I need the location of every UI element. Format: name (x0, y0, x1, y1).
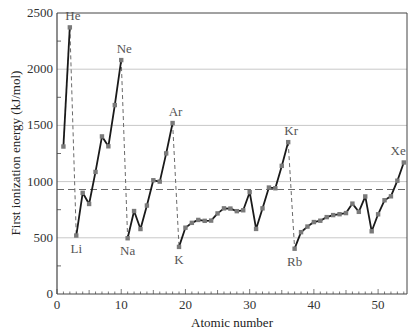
data-point (292, 247, 296, 251)
data-point (235, 209, 239, 213)
x-tick-label: 40 (307, 297, 320, 312)
data-point (254, 227, 258, 231)
y-tick-label: 500 (34, 230, 54, 245)
data-point (382, 198, 386, 202)
data-point (228, 206, 232, 210)
data-point (177, 245, 181, 249)
y-tick-label: 2500 (27, 5, 53, 20)
data-point (125, 236, 129, 240)
series-line (179, 142, 288, 247)
data-point (170, 121, 174, 125)
data-point (325, 215, 329, 219)
data-point (138, 227, 142, 231)
data-point (376, 212, 380, 216)
period-break (288, 142, 294, 249)
data-point (203, 219, 207, 223)
x-tick-label: 50 (372, 297, 385, 312)
element-label-rb: Rb (287, 254, 302, 269)
data-point (337, 212, 341, 216)
data-point (363, 194, 367, 198)
period-break (121, 60, 127, 238)
x-tick-label: 30 (243, 297, 256, 312)
data-point (68, 25, 72, 29)
y-tick-label: 2000 (27, 61, 53, 76)
element-label-k: K (174, 252, 184, 267)
element-label-ne: Ne (117, 41, 132, 56)
x-tick-label: 0 (54, 297, 61, 312)
data-point (267, 185, 271, 189)
data-point (389, 194, 393, 198)
data-point (190, 221, 194, 225)
period-break (70, 27, 76, 235)
data-point (183, 225, 187, 229)
x-tick-label: 10 (115, 297, 128, 312)
data-point (222, 206, 226, 210)
data-point (318, 219, 322, 223)
data-point (119, 58, 123, 62)
data-point (299, 230, 303, 234)
data-point (247, 190, 251, 194)
data-point (312, 220, 316, 224)
data-point (280, 164, 284, 168)
data-point (196, 218, 200, 222)
ionization-energy-chart: 0102030405005001000150020002500 HeNeArKr… (0, 0, 418, 334)
element-labels: HeNeArKrXeLiNaKRb (65, 8, 406, 268)
grid-lines (57, 69, 407, 238)
data-point (395, 179, 399, 183)
element-label-ar: Ar (169, 104, 183, 119)
data-point (350, 201, 354, 205)
data-point (286, 140, 290, 144)
period-break (173, 123, 179, 247)
data-point (106, 144, 110, 148)
data-point (80, 191, 84, 195)
data-point (215, 211, 219, 215)
series-line (76, 60, 121, 236)
data-point (145, 203, 149, 207)
element-label-na: Na (120, 243, 135, 258)
data-point (331, 213, 335, 217)
data-point (100, 134, 104, 138)
element-label-li: Li (70, 241, 82, 256)
data-point (402, 160, 406, 164)
data-point (357, 210, 361, 214)
data-point (273, 186, 277, 190)
data-point (132, 209, 136, 213)
data-point (164, 151, 168, 155)
data-series (61, 25, 406, 251)
data-point (305, 224, 309, 228)
y-tick-label: 1000 (27, 174, 53, 189)
element-label-xe: Xe (391, 143, 406, 158)
data-point (74, 233, 78, 237)
y-tick-label: 1500 (27, 117, 53, 132)
data-point (158, 179, 162, 183)
tick-labels: 0102030405005001000150020002500 (27, 5, 385, 312)
data-point (93, 170, 97, 174)
element-label-kr: Kr (284, 123, 298, 138)
x-tick-label: 20 (179, 297, 192, 312)
y-tick-label: 0 (47, 286, 54, 301)
data-point (344, 211, 348, 215)
element-label-he: He (65, 8, 80, 23)
data-point (209, 218, 213, 222)
data-point (61, 144, 65, 148)
data-point (369, 229, 373, 233)
x-axis-title: Atomic number (191, 315, 274, 330)
axes (57, 13, 407, 294)
y-axis-title: First ionization energy (kJ/mol) (8, 71, 23, 236)
data-point (87, 202, 91, 206)
series-line (63, 27, 69, 146)
series-line (295, 163, 404, 249)
data-point (260, 206, 264, 210)
data-point (151, 178, 155, 182)
data-point (241, 208, 245, 212)
series-line (128, 123, 173, 238)
data-point (113, 103, 117, 107)
